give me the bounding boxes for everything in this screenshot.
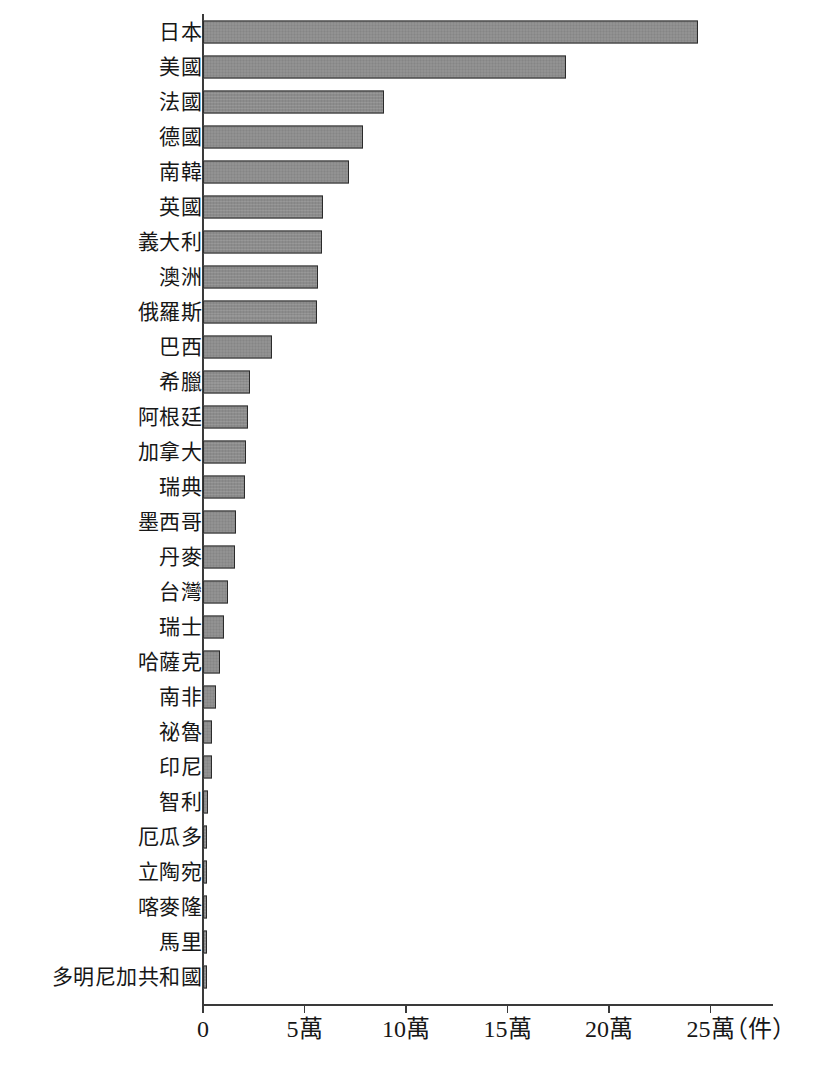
bar xyxy=(203,405,248,428)
bar-row: 喀麥隆 xyxy=(0,889,830,924)
bar xyxy=(203,20,698,43)
bar-category-label: 祕魯 xyxy=(159,721,202,742)
bar xyxy=(203,965,207,988)
bar-category-label: 義大利 xyxy=(138,231,203,252)
x-axis-tick xyxy=(507,1004,509,1013)
bar-category-label: 丹麥 xyxy=(159,546,202,567)
bar-row: 希臘 xyxy=(0,364,830,399)
bar-row: 俄羅斯 xyxy=(0,294,830,329)
bar xyxy=(203,650,220,673)
bar xyxy=(203,860,207,883)
bar-category-label: 瑞士 xyxy=(159,616,202,637)
x-axis-tick xyxy=(304,1004,306,1013)
bar-row: 印尼 xyxy=(0,749,830,784)
bar-category-label: 法國 xyxy=(159,91,202,112)
bar-row: 巴西 xyxy=(0,329,830,364)
bar xyxy=(203,335,272,358)
bar-row: 厄瓜多 xyxy=(0,819,830,854)
bar-row: 日本 xyxy=(0,14,830,49)
bar-row: 立陶宛 xyxy=(0,854,830,889)
bar-category-label: 美國 xyxy=(159,56,202,77)
bar-category-label: 澳洲 xyxy=(159,266,202,287)
x-axis-tick-label: 0 xyxy=(197,1017,209,1041)
bar-category-label: 喀麥隆 xyxy=(138,896,203,917)
bar-row: 英國 xyxy=(0,189,830,224)
bar-category-label: 南韓 xyxy=(159,161,202,182)
bar xyxy=(203,265,318,288)
bar-category-label: 南非 xyxy=(159,686,202,707)
bar-row: 阿根廷 xyxy=(0,399,830,434)
bar-row: 哈薩克 xyxy=(0,644,830,679)
bar-category-label: 加拿大 xyxy=(138,441,203,462)
bar xyxy=(203,895,207,918)
bar-row: 瑞士 xyxy=(0,609,830,644)
bar-category-label: 日本 xyxy=(159,21,202,42)
bar-category-label: 希臘 xyxy=(159,371,202,392)
bar-category-label: 哈薩克 xyxy=(138,651,203,672)
bar-row: 南非 xyxy=(0,679,830,714)
bar-category-label: 智利 xyxy=(159,791,202,812)
bar-category-label: 立陶宛 xyxy=(138,861,203,882)
bar-category-label: 英國 xyxy=(159,196,202,217)
bar-row: 馬里 xyxy=(0,924,830,959)
x-axis-tick xyxy=(710,1004,712,1013)
horizontal-bar-chart: 日本美國法國德國南韓英國義大利澳洲俄羅斯巴西希臘阿根廷加拿大瑞典墨西哥丹麥台灣瑞… xyxy=(0,0,830,1087)
bar-row: 義大利 xyxy=(0,224,830,259)
bar xyxy=(203,230,322,253)
x-axis-line xyxy=(203,1004,773,1006)
bar-rows-container: 日本美國法國德國南韓英國義大利澳洲俄羅斯巴西希臘阿根廷加拿大瑞典墨西哥丹麥台灣瑞… xyxy=(0,14,830,994)
bar-category-label: 厄瓜多 xyxy=(138,826,203,847)
bar-row: 台灣 xyxy=(0,574,830,609)
bar xyxy=(203,160,349,183)
bar xyxy=(203,475,245,498)
bar xyxy=(203,125,363,148)
bar xyxy=(203,545,235,568)
bar-row: 墨西哥 xyxy=(0,504,830,539)
bar-row: 美國 xyxy=(0,49,830,84)
x-axis-tick-label: 5萬 xyxy=(287,1017,323,1041)
x-axis-tick-label: 20萬 xyxy=(585,1017,633,1041)
bar xyxy=(203,370,250,393)
bar xyxy=(203,615,224,638)
bar-category-label: 墨西哥 xyxy=(138,511,203,532)
bar-row: 丹麥 xyxy=(0,539,830,574)
bar-row: 南韓 xyxy=(0,154,830,189)
bar xyxy=(203,90,384,113)
bar-category-label: 馬里 xyxy=(159,931,202,952)
bar xyxy=(203,510,236,533)
x-axis-unit-label: （件） xyxy=(724,1017,796,1041)
bar xyxy=(203,720,212,743)
bar-row: 德國 xyxy=(0,119,830,154)
bar-row: 瑞典 xyxy=(0,469,830,504)
plot-area: 日本美國法國德國南韓英國義大利澳洲俄羅斯巴西希臘阿根廷加拿大瑞典墨西哥丹麥台灣瑞… xyxy=(0,0,830,1087)
bar-category-label: 多明尼加共和國 xyxy=(52,966,203,987)
x-axis-tick-label: 15萬 xyxy=(484,1017,532,1041)
bar xyxy=(203,930,207,953)
bar-category-label: 巴西 xyxy=(159,336,202,357)
bar xyxy=(203,825,207,848)
bar-row: 祕魯 xyxy=(0,714,830,749)
x-axis-tick xyxy=(405,1004,407,1013)
bar-category-label: 印尼 xyxy=(159,756,202,777)
bar-category-label: 阿根廷 xyxy=(138,406,203,427)
bar-category-label: 台灣 xyxy=(159,581,202,602)
bar xyxy=(203,685,216,708)
bar-category-label: 德國 xyxy=(159,126,202,147)
bar-row: 法國 xyxy=(0,84,830,119)
bar xyxy=(203,195,323,218)
x-axis-tick xyxy=(202,1004,204,1013)
x-axis-tick-label: 10萬 xyxy=(382,1017,430,1041)
bar xyxy=(203,440,246,463)
bar-category-label: 瑞典 xyxy=(159,476,202,497)
bar-row: 加拿大 xyxy=(0,434,830,469)
bar xyxy=(203,790,208,813)
bar-row: 多明尼加共和國 xyxy=(0,959,830,994)
bar xyxy=(203,755,212,778)
bar-category-label: 俄羅斯 xyxy=(138,301,203,322)
bar-row: 智利 xyxy=(0,784,830,819)
bar xyxy=(203,580,228,603)
x-axis-tick xyxy=(608,1004,610,1013)
bar xyxy=(203,55,566,78)
bar-row: 澳洲 xyxy=(0,259,830,294)
bar xyxy=(203,300,317,323)
